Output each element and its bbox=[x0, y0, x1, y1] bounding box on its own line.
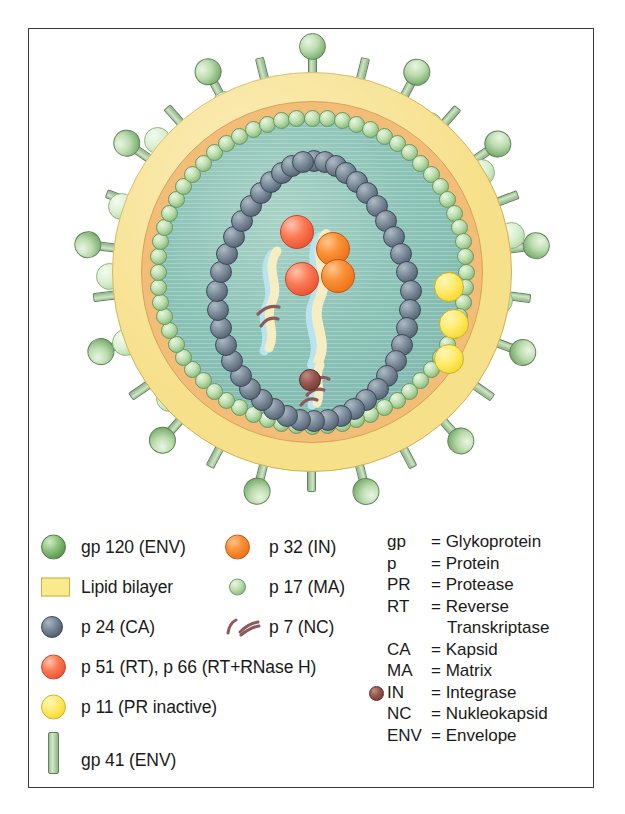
legend-abbreviations: gp= Glykoproteinp= ProteinPR= ProteaseRT… bbox=[369, 531, 595, 746]
pr-sphere-p11 bbox=[439, 309, 469, 339]
legend-label: p 51 (RT), p 66 (RT+RNase H) bbox=[81, 657, 316, 678]
abbreviation-key: ENV bbox=[387, 725, 422, 747]
abbreviation-row: ENV= Envelope bbox=[369, 725, 595, 747]
legend-label: p 17 (MA) bbox=[269, 577, 345, 598]
legend-item-gp41: gp 41 (ENV) bbox=[41, 727, 371, 779]
abbreviation-row: MA= Matrix bbox=[369, 660, 595, 682]
abbreviation-row: CA= Kapsid bbox=[369, 639, 595, 661]
pr-sphere-p11 bbox=[434, 272, 464, 302]
rt-sphere-p66 bbox=[285, 262, 319, 296]
legend-label: p 24 (CA) bbox=[81, 617, 155, 638]
hiv-virion-diagram bbox=[29, 29, 595, 519]
integrase-sphere bbox=[299, 369, 321, 391]
abbreviation-row: NC= Nukleokapsid bbox=[369, 703, 595, 725]
legend-label: gp 41 (ENV) bbox=[81, 750, 176, 771]
p17-swatch-icon bbox=[229, 579, 246, 596]
legend-label: p 11 (PR inactive) bbox=[81, 697, 217, 718]
abbreviation-row: gp= Glykoprotein bbox=[369, 531, 595, 553]
abbreviation-key: PR bbox=[387, 574, 411, 596]
legend-item-p11: p 11 (PR inactive) bbox=[41, 687, 371, 727]
figure-frame: gp 120 (ENV) Lipid bilayer p 24 (CA) p 5… bbox=[28, 28, 594, 788]
abbreviation-value: = Nukleokapsid bbox=[431, 703, 548, 725]
abbreviation-key: p bbox=[387, 553, 396, 575]
abbreviation-key: MA bbox=[387, 660, 413, 682]
integrase-dot-icon bbox=[369, 686, 384, 701]
legend-label: Lipid bilayer bbox=[81, 577, 173, 598]
p32-swatch-icon bbox=[225, 535, 250, 560]
abbreviation-key: CA bbox=[387, 639, 411, 661]
rt-sphere-p51 bbox=[280, 215, 314, 249]
abbreviation-value: = Glykoprotein bbox=[431, 531, 541, 553]
figure-legend: gp 120 (ENV) Lipid bilayer p 24 (CA) p 5… bbox=[29, 521, 595, 787]
legend-label: gp 120 (ENV) bbox=[81, 537, 186, 558]
rt-swatch-icon bbox=[41, 655, 66, 680]
abbreviation-value: = Integrase bbox=[431, 682, 517, 704]
legend-item-rt: p 51 (RT), p 66 (RT+RNase H) bbox=[41, 647, 371, 687]
abbreviation-key: NC bbox=[387, 703, 412, 725]
abbreviation-value: = Protein bbox=[431, 553, 500, 575]
abbreviation-value: Transkriptase bbox=[447, 617, 549, 639]
abbreviation-value: = Protease bbox=[431, 574, 514, 596]
p11-swatch-icon bbox=[41, 695, 66, 720]
abbreviation-value: = Reverse bbox=[431, 596, 509, 618]
abbreviation-row: PR= Protease bbox=[369, 574, 595, 596]
abbreviation-value: = Envelope bbox=[431, 725, 517, 747]
abbreviation-row: Transkriptase bbox=[369, 617, 595, 639]
abbreviation-key: RT bbox=[387, 596, 409, 618]
legend-label: p 7 (NC) bbox=[269, 617, 334, 638]
figure-caption bbox=[30, 798, 620, 812]
abbreviation-value: = Kapsid bbox=[431, 639, 498, 661]
abbreviation-key: IN bbox=[387, 682, 404, 704]
gp120-swatch-icon bbox=[41, 535, 66, 560]
p7-nc-swatch-icon bbox=[225, 617, 261, 637]
p24-swatch-icon bbox=[41, 616, 63, 638]
lipid-bilayer-swatch-icon bbox=[41, 578, 70, 597]
in-sphere-p32 bbox=[321, 259, 355, 293]
abbreviation-value: = Matrix bbox=[431, 660, 492, 682]
abbreviation-row: p= Protein bbox=[369, 553, 595, 575]
gp41-swatch-icon bbox=[48, 732, 59, 774]
abbreviation-row: RT= Reverse bbox=[369, 596, 595, 618]
abbreviation-key: gp bbox=[387, 531, 406, 553]
legend-label: p 32 (IN) bbox=[269, 537, 336, 558]
pr-sphere-p11 bbox=[434, 344, 464, 374]
abbreviation-row: IN= Integrase bbox=[369, 682, 595, 704]
